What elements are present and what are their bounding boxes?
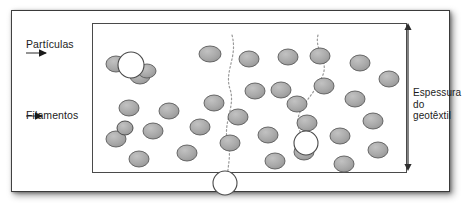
particle [310,48,330,64]
particle [363,113,383,129]
particle [199,46,221,62]
label-particulas: Partículas [26,39,74,51]
thickness-dimension-arrow [404,23,411,171]
leader-line-group [26,53,46,116]
particle [177,145,197,161]
figure-canvas: Partículas Filamentos Espessura do geotê… [0,0,470,203]
particle [265,153,285,169]
particle [245,83,265,99]
particle [287,96,307,112]
highlight-circle [118,52,144,78]
particle [330,128,350,144]
particle [271,82,291,98]
flow-path [226,35,233,183]
figure-panel: Partículas Filamentos Espessura do geotê… [11,10,450,192]
particle [278,49,298,65]
particle [119,100,139,116]
particle [239,51,259,67]
particle [334,156,354,172]
highlight-circle [294,131,318,155]
particle-group [106,46,399,172]
dimension-arrow-head-top [404,23,411,30]
particle [228,109,248,125]
label-filamentos: Filamentos [26,110,78,122]
particle [379,71,399,87]
particle [159,103,179,119]
particle [258,127,278,143]
particle [297,115,317,131]
particle [190,119,210,135]
highlight-circle [213,171,237,195]
filament-particle [117,121,133,135]
particle [350,55,370,71]
particle [345,91,365,107]
filament-marker [117,121,133,135]
diagram-artwork [12,11,449,191]
particle [129,151,149,167]
particle [368,142,388,158]
label-espessura-geotextil: Espessura do geotêxtil [413,87,461,122]
dimension-arrow-head-bottom [404,164,411,171]
particle [314,78,334,94]
particle [143,123,163,139]
particle [204,95,224,111]
particle [220,135,240,151]
